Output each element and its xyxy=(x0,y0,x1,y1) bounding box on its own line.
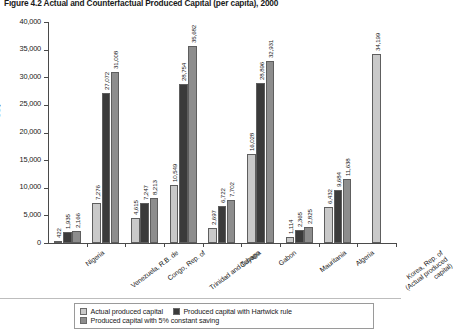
legend-item-constant-saving[interactable]: Produced capital with 5% constant saving xyxy=(80,316,219,325)
x-axis-category-line: Nigeria xyxy=(84,249,106,268)
legend-item-hartwick[interactable]: Produced capital with Hartwick rule xyxy=(173,307,292,316)
bar[interactable]: 2,365 xyxy=(295,230,304,243)
x-axis-tick-mark xyxy=(396,243,397,247)
bar[interactable]: 7,247 xyxy=(140,203,149,243)
legend-row-top: Actual produced capital Produced capital… xyxy=(80,307,369,316)
bar-value-label: 7,276 xyxy=(94,185,101,200)
legend-item-actual[interactable]: Actual produced capital xyxy=(80,307,163,316)
bar-value-label: 2,825 xyxy=(306,210,313,225)
legend-label-actual: Actual produced capital xyxy=(91,307,163,316)
chart-legend: Actual produced capital Produced capital… xyxy=(74,303,374,329)
x-axis-tick-mark xyxy=(87,243,88,247)
bar[interactable]: 6,432 xyxy=(324,207,333,243)
bar[interactable]: 8,213 xyxy=(150,198,159,243)
bar[interactable]: 28,754 xyxy=(179,84,188,243)
bar[interactable]: 422 xyxy=(54,241,63,243)
y-axis-tick-label: 25,000 xyxy=(20,99,41,108)
bar[interactable]: 35,682 xyxy=(188,46,197,243)
legend-swatch-constant-saving xyxy=(80,317,87,324)
bar[interactable]: 2,825 xyxy=(304,227,313,243)
bar[interactable]: 7,702 xyxy=(227,200,236,243)
legend-row-bottom: Produced capital with 5% constant saving xyxy=(80,316,369,325)
y-axis-tick-label: 0 xyxy=(37,238,41,247)
legend-label-constant-saving: Produced capital with 5% constant saving xyxy=(91,316,220,325)
y-axis-tick-label: 30,000 xyxy=(20,72,41,81)
bar[interactable]: 7,276 xyxy=(92,203,101,243)
bar[interactable]: 32,931 xyxy=(266,61,275,243)
bar-group: 7,27627,07231,008 xyxy=(87,22,126,243)
bar-value-label: 2,365 xyxy=(297,212,304,227)
bar-value-label: 2,166 xyxy=(74,213,81,228)
bar-value-label: 7,247 xyxy=(142,185,149,200)
bar-value-label: 10,549 xyxy=(171,164,178,182)
y-axis-tick-label: 20,000 xyxy=(20,127,41,136)
bar-value-label: 27,072 xyxy=(103,72,110,90)
bar-value-label: 1,935 xyxy=(65,215,72,230)
plot-area: 4221,9352,1667,27627,07231,0084,6157,247… xyxy=(48,22,396,243)
x-axis-category-line: Algeria xyxy=(355,249,376,268)
bar[interactable]: 16,028 xyxy=(247,154,256,243)
x-axis-category-label: Korea, Rep. of(Actual producedcapital) xyxy=(399,249,454,299)
bar[interactable]: 1,114 xyxy=(286,237,295,243)
y-axis-tick-label: 15,000 xyxy=(20,155,41,164)
x-axis-line xyxy=(48,243,396,244)
y-axis-tick-label: 35,000 xyxy=(20,44,41,53)
bar-group: 1,1142,3652,825 xyxy=(280,22,319,243)
bar[interactable]: 10,549 xyxy=(170,185,179,243)
bar[interactable]: 34,199 xyxy=(372,54,381,243)
bar-value-label: 31,008 xyxy=(112,51,119,69)
bar[interactable]: 28,896 xyxy=(256,83,265,243)
bar-group: 4221,9352,166 xyxy=(48,22,87,243)
x-axis-category-line: Mauritania xyxy=(318,249,348,274)
y-axis-tick-label: 40,000 xyxy=(20,17,41,26)
bar-value-label: 6,432 xyxy=(326,190,333,205)
x-axis-category-label: Algeria xyxy=(355,249,376,268)
y-axis-tick-label: 10,000 xyxy=(20,182,41,191)
bar-group: 34,199 xyxy=(357,22,396,243)
page-title: Figure 4.2 Actual and Counterfactual Pro… xyxy=(4,0,399,8)
y-axis-label: US$ xyxy=(0,104,2,118)
bar-group: 10,54928,75435,682 xyxy=(164,22,203,243)
x-axis-tick-mark xyxy=(319,243,320,247)
bar[interactable]: 9,684 xyxy=(334,190,343,244)
bar-value-label: 28,896 xyxy=(258,62,265,80)
bar-value-label: 8,213 xyxy=(151,180,158,195)
x-axis-tick-mark xyxy=(203,243,204,247)
bar[interactable]: 2,166 xyxy=(72,231,81,243)
x-axis-category-label: Mauritania xyxy=(318,249,348,274)
legend-label-hartwick: Produced capital with Hartwick rule xyxy=(183,307,291,316)
bar[interactable]: 6,722 xyxy=(218,206,227,243)
bar-value-label: 4,615 xyxy=(133,200,140,215)
bar-value-label: 16,028 xyxy=(249,133,256,151)
bar-value-label: 7,702 xyxy=(228,183,235,198)
bar-value-label: 34,199 xyxy=(374,33,381,51)
bar-group: 4,6157,2478,213 xyxy=(125,22,164,243)
x-axis-tick-mark xyxy=(125,243,126,247)
bar[interactable]: 27,072 xyxy=(102,93,111,243)
y-axis-tick-mark xyxy=(44,243,48,244)
bar[interactable]: 11,638 xyxy=(343,179,352,243)
y-axis-tick-label: 5,000 xyxy=(24,210,42,219)
bar[interactable]: 2,697 xyxy=(208,228,217,243)
x-axis-category-label: Nigeria xyxy=(84,249,106,268)
x-axis-tick-mark xyxy=(164,243,165,247)
bar-group: 16,02828,89632,931 xyxy=(241,22,280,243)
bar-value-label: 35,682 xyxy=(190,25,197,43)
x-axis-category-line: Gabon xyxy=(277,249,298,268)
bar-value-label: 9,684 xyxy=(335,172,342,187)
bar-value-label: 2,697 xyxy=(210,210,217,225)
bar[interactable]: 4,615 xyxy=(131,218,140,243)
x-axis-tick-mark xyxy=(241,243,242,247)
bar-value-label: 28,754 xyxy=(181,63,188,81)
bar-group: 2,6976,7227,702 xyxy=(203,22,242,243)
bar-group: 6,4329,68411,638 xyxy=(319,22,358,243)
bar[interactable]: 1,935 xyxy=(63,232,72,243)
bar-value-label: 32,931 xyxy=(267,40,274,58)
bar-value-label: 11,638 xyxy=(344,158,351,176)
bar-value-label: 1,114 xyxy=(287,220,294,234)
bar-value-label: 6,722 xyxy=(219,188,226,203)
bar-value-label: 422 xyxy=(55,228,62,238)
legend-swatch-hartwick xyxy=(173,308,180,315)
x-axis-category-label: Gabon xyxy=(277,249,298,268)
bar[interactable]: 31,008 xyxy=(111,72,120,243)
